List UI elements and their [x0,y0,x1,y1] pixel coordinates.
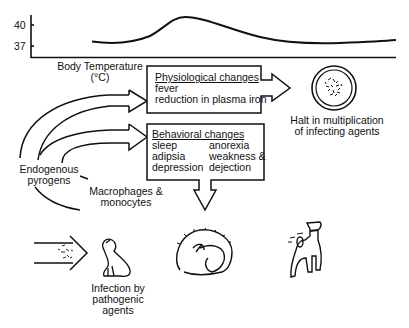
endogenous-line2: pyrogens [14,175,84,186]
y-tick-40: 40 [14,19,26,31]
sitting-dog-icon [103,239,130,276]
physiological-box-text: Physiological changes fever reduction in… [155,72,266,105]
temperature-chart [31,15,396,58]
behavioral-col2: anorexia weakness & dejection [209,140,266,173]
endogenous-pyrogens-label: Endogenous pyrogens [14,164,84,186]
behavioral-box-text: Behavioral changes sleep adipsia depress… [152,129,266,173]
infection-label: Infection by pathogenic agents [86,283,150,316]
standing-dog-icon [288,222,321,277]
x-axis-label: Body Temperature (°C) [50,61,150,83]
infection-arrow [34,236,87,270]
temperature-curve [92,17,396,43]
macrophages-label: Macrophages & monocytes [86,186,166,208]
behavioral-item: dejection [209,162,266,173]
behavioral-col1: sleep adipsia depression [152,140,209,173]
petri-dish-icon [312,66,356,110]
infection-line3: agents [86,305,150,316]
outcome-label: Halt in multiplication of infecting agen… [282,115,392,137]
macrophages-line2: monocytes [86,197,166,208]
x-axis-label-line2: (°C) [50,72,150,83]
y-tick-37: 37 [14,40,26,52]
outcome-line2: of infecting agents [282,126,392,137]
behavioral-item: depression [152,162,209,173]
physiological-item: reduction in plasma iron [155,94,266,105]
sleeping-dog-icon [177,228,232,275]
